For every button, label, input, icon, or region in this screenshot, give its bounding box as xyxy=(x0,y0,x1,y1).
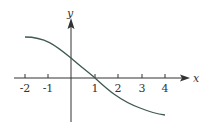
svg-text:-2: -2 xyxy=(20,82,31,95)
y-axis xyxy=(68,18,75,122)
svg-text:2: 2 xyxy=(115,82,122,95)
x-axis xyxy=(14,75,190,82)
x-axis-label: x xyxy=(193,72,200,85)
y-axis-label: y xyxy=(66,7,74,20)
x-tick-labels: -2 -1 1 2 3 4 xyxy=(20,82,169,95)
svg-text:4: 4 xyxy=(162,82,169,95)
svg-text:-1: -1 xyxy=(43,82,54,95)
svg-text:1: 1 xyxy=(92,82,99,95)
chart: -2 -1 1 2 3 4 x y xyxy=(0,0,203,129)
svg-text:3: 3 xyxy=(139,82,146,95)
